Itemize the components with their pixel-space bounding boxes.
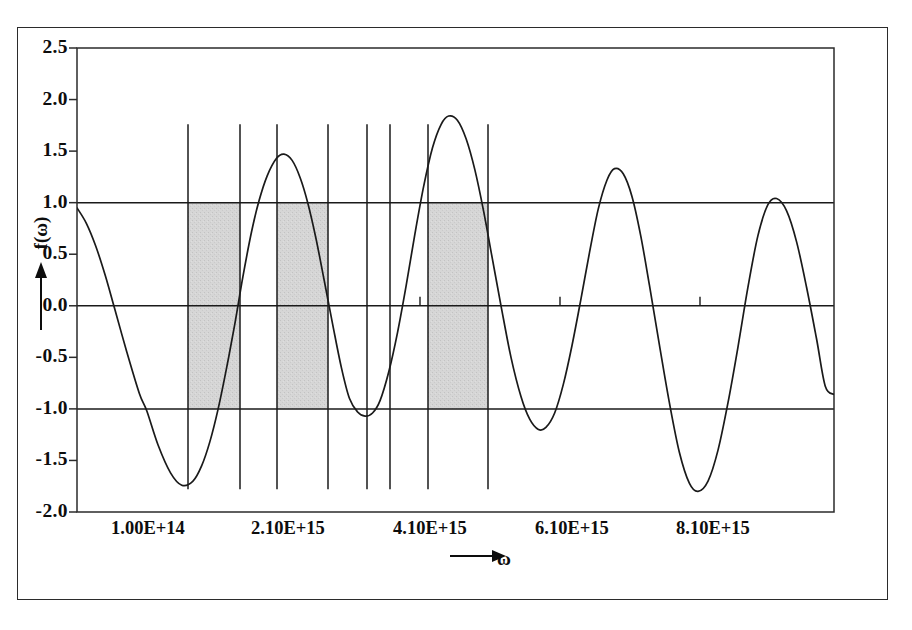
y-tick-label-7: -1.0 (2, 397, 68, 419)
x-tick-label-0: 1.00E+14 (88, 518, 208, 539)
y-tick-label-1: 2.0 (2, 88, 68, 110)
x-tick-label-4: 8.10E+15 (653, 518, 773, 539)
y-tick-label-6: -0.5 (2, 345, 68, 367)
x-axis-label: ω (497, 548, 511, 570)
x-tick-label-3: 6.10E+15 (512, 518, 632, 539)
y-tick-label-5: 0.0 (2, 294, 68, 316)
y-tick-label-9: -2.0 (2, 500, 68, 522)
figure-container: 2.52.01.51.00.50.0-0.5-1.0-1.5-2.0 1.00E… (0, 0, 912, 630)
y-axis-label-text: f(ω) (30, 203, 52, 263)
x-tick-label-1: 2.10E+15 (228, 518, 348, 539)
x-tick-label-2: 4.10E+15 (370, 518, 490, 539)
y-axis-label: f(ω) (24, 210, 58, 270)
y-tick-label-0: 2.5 (2, 36, 68, 58)
y-tick-label-2: 1.5 (2, 139, 68, 161)
y-axis-ticks (69, 48, 77, 512)
y-tick-label-8: -1.5 (2, 448, 68, 470)
